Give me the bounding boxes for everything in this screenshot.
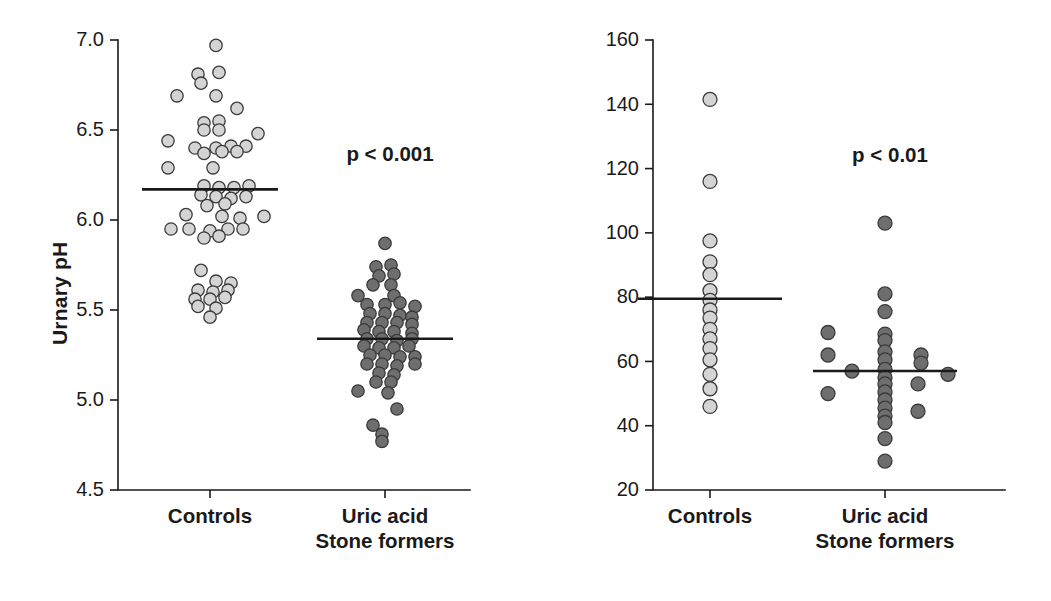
data-point <box>258 210 270 222</box>
data-point <box>198 124 210 136</box>
data-point <box>370 376 382 388</box>
data-point <box>821 348 835 362</box>
data-point <box>213 230 225 242</box>
data-point <box>195 264 207 276</box>
x-category-label-line2: Stone formers <box>316 529 455 552</box>
x-category-label: Controls <box>668 504 752 527</box>
panel-nh4-net-acid-excretion: 20406080100120140160ControlsUric acidSto… <box>525 0 1051 601</box>
panel-urinary-ph: 4.55.05.56.06.57.0ControlsUric acidStone… <box>0 0 525 601</box>
x-category-label: Uric acid <box>842 504 929 527</box>
y-tick-label: 4.5 <box>76 478 104 500</box>
y-tick-label: 7.0 <box>76 28 104 50</box>
data-point <box>171 90 183 102</box>
data-point <box>231 102 243 114</box>
data-point <box>219 198 231 210</box>
data-point <box>703 234 717 248</box>
y-tick-label: 100 <box>606 221 639 243</box>
data-point <box>878 416 892 430</box>
data-point <box>180 208 192 220</box>
data-point <box>409 358 421 370</box>
nh4-excretion-scatter-plot: 20406080100120140160ControlsUric acidSto… <box>525 0 1051 601</box>
data-point <box>382 387 394 399</box>
data-point <box>821 326 835 340</box>
y-tick-label: 120 <box>606 157 639 179</box>
data-point <box>703 367 717 381</box>
data-point <box>914 356 928 370</box>
data-point <box>231 145 243 157</box>
data-point <box>183 223 195 235</box>
x-category-label: Controls <box>168 504 252 527</box>
data-point <box>237 223 249 235</box>
y-tick-label: 140 <box>606 93 639 115</box>
data-point <box>207 162 219 174</box>
data-point <box>878 287 892 301</box>
p-value-annotation: p < 0.001 <box>346 142 433 165</box>
y-tick-label: 160 <box>606 28 639 50</box>
data-point <box>911 404 925 418</box>
data-point <box>162 135 174 147</box>
p-value-annotation: p < 0.01 <box>852 143 928 166</box>
data-point <box>878 305 892 319</box>
data-point <box>394 297 406 309</box>
data-point <box>361 358 373 370</box>
data-point <box>162 162 174 174</box>
data-point <box>703 255 717 269</box>
y-tick-label: 40 <box>617 414 639 436</box>
y-tick-label: 80 <box>617 285 639 307</box>
data-point <box>703 353 717 367</box>
x-category-label-line2: Stone formers <box>816 529 955 552</box>
data-point <box>204 311 216 323</box>
data-point <box>165 223 177 235</box>
data-point <box>703 382 717 396</box>
urinary-ph-scatter-plot: 4.55.05.56.06.57.0ControlsUric acidStone… <box>0 0 525 601</box>
data-point <box>376 435 388 447</box>
data-point <box>821 387 835 401</box>
data-point <box>911 377 925 391</box>
data-point <box>213 66 225 78</box>
y-tick-label: 6.0 <box>76 208 104 230</box>
data-point <box>192 300 204 312</box>
data-point <box>240 190 252 202</box>
data-point <box>379 237 391 249</box>
data-point <box>878 432 892 446</box>
data-point <box>213 124 225 136</box>
y-axis-title-left: Urnary pH <box>48 242 72 345</box>
data-point <box>703 399 717 413</box>
data-point <box>198 232 210 244</box>
data-point <box>252 127 264 139</box>
data-point <box>352 385 364 397</box>
data-point <box>703 268 717 282</box>
data-point <box>201 199 213 211</box>
figure-container: 4.55.05.56.06.57.0ControlsUric acidStone… <box>0 0 1051 601</box>
y-tick-label: 6.5 <box>76 118 104 140</box>
x-category-label: Uric acid <box>342 504 429 527</box>
y-tick-label: 5.5 <box>76 298 104 320</box>
data-point <box>878 216 892 230</box>
axis-spine <box>118 40 470 490</box>
data-point <box>195 77 207 89</box>
data-point <box>216 210 228 222</box>
y-tick-label: 60 <box>617 350 639 372</box>
y-tick-label: 20 <box>617 478 639 500</box>
data-point <box>703 92 717 106</box>
data-point <box>941 367 955 381</box>
data-point <box>878 454 892 468</box>
y-tick-label: 5.0 <box>76 388 104 410</box>
data-point <box>216 145 228 157</box>
data-point <box>198 147 210 159</box>
data-point <box>703 174 717 188</box>
data-point <box>219 291 231 303</box>
data-point <box>210 90 222 102</box>
data-point <box>391 403 403 415</box>
data-point <box>367 279 379 291</box>
data-point <box>210 39 222 51</box>
